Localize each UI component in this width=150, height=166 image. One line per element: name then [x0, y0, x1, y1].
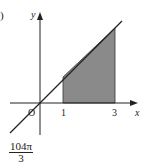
tick-label-1: 1	[61, 107, 66, 118]
shaded-region	[63, 28, 115, 103]
origin-label: O	[28, 107, 35, 118]
y-axis-label: y	[30, 9, 36, 20]
answer-fraction: 104π 3	[9, 140, 33, 164]
y-axis-arrow-icon	[37, 12, 43, 20]
x-axis-label: x	[134, 107, 140, 118]
answer-denominator: 3	[9, 153, 33, 164]
x-axis-arrow-icon	[130, 100, 138, 106]
tick-label-3: 3	[112, 107, 117, 118]
